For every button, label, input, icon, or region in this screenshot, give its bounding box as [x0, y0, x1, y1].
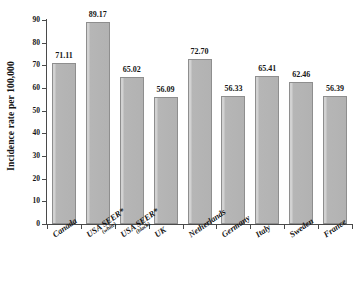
bar [120, 77, 144, 224]
y-tick-label: 50 [22, 107, 40, 115]
bar [255, 76, 279, 224]
bar [52, 63, 76, 224]
y-tick-label-text: 60 [22, 84, 40, 92]
y-tick-label-text: 80 [22, 39, 40, 47]
y-tick-label-text: 90 [22, 16, 40, 24]
y-tick-label: 40 [22, 129, 40, 137]
y-tick-label-text: 0 [22, 220, 40, 228]
bar [323, 96, 347, 224]
y-tick-label-text: 30 [22, 152, 40, 160]
y-tick-label-text: 10 [22, 197, 40, 205]
bar-value-label: 56.09 [146, 86, 186, 94]
y-tick-label: 90 [22, 16, 40, 24]
bar [289, 82, 313, 224]
x-axis-label: Italy [254, 223, 272, 240]
y-tick-label: 60 [22, 84, 40, 92]
bar-value-label: 56.39 [315, 85, 355, 93]
y-tick-label: 30 [22, 152, 40, 160]
bar [154, 97, 178, 224]
y-axis-title-text: Incidence rate per 100,000 [6, 61, 16, 171]
bar [188, 59, 212, 224]
y-tick-label-text: 20 [22, 175, 40, 183]
y-tick-label-text: 50 [22, 107, 40, 115]
x-tick-mark [318, 225, 319, 229]
y-tick-label: 10 [22, 197, 40, 205]
y-tick-label: 70 [22, 61, 40, 69]
y-tick-label-text: 40 [22, 129, 40, 137]
bar-value-label: 56.33 [213, 85, 253, 93]
bar-value-label: 89.17 [78, 11, 118, 19]
x-tick-mark [284, 225, 285, 229]
y-tick-label: 0 [22, 220, 40, 228]
x-tick-mark [250, 225, 251, 229]
y-axis-title: Incidence rate per 100,000 [0, 0, 22, 232]
x-tick-mark [216, 225, 217, 229]
x-tick-mark [47, 225, 48, 229]
bar-value-label: 72.70 [180, 48, 220, 56]
x-tick-mark [81, 225, 82, 229]
bar [221, 96, 245, 224]
bar-value-label: 65.02 [112, 66, 152, 74]
bar-value-label: 62.46 [281, 71, 321, 79]
bar [86, 22, 110, 224]
bar-chart: Incidence rate per 100,000 0102030405060… [0, 0, 361, 282]
y-tick-label: 20 [22, 175, 40, 183]
y-tick-label-text: 70 [22, 61, 40, 69]
x-tick-mark [183, 225, 184, 229]
x-axis-label-text: UK [152, 224, 167, 239]
y-tick-label: 80 [22, 39, 40, 47]
bar-value-label: 71.11 [44, 52, 84, 60]
x-axis-label: UK [153, 225, 168, 239]
x-tick-mark [352, 225, 353, 229]
